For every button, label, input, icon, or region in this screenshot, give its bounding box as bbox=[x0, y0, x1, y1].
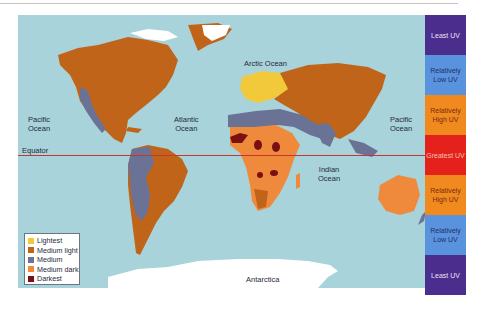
uv-segment-high-south: Relatively High UV bbox=[425, 175, 466, 215]
uv-segment-label: Relatively High UV bbox=[425, 186, 466, 204]
antarctica-label: Antarctica bbox=[246, 275, 279, 284]
uv-segment-greatest: Greatest UV bbox=[425, 135, 466, 175]
africa-darkest-east bbox=[272, 142, 280, 152]
caribbean-islands bbox=[126, 127, 142, 133]
legend-item-lightest: Lightest bbox=[28, 236, 76, 246]
legend-label: Medium bbox=[37, 255, 63, 264]
africa-darkest-south bbox=[270, 170, 278, 176]
legend-label: Medium light bbox=[37, 246, 78, 255]
indian-ocean-label: Indian Ocean bbox=[318, 165, 340, 183]
north-america-region bbox=[58, 37, 178, 143]
uv-segment-label: Relatively Low UV bbox=[425, 226, 466, 244]
equator-label: Equator bbox=[22, 146, 48, 155]
uv-segment-least-top: Least UV bbox=[425, 15, 466, 55]
legend-label: Medium dark bbox=[37, 265, 79, 274]
arctic-ocean-label: Arctic Ocean bbox=[244, 59, 287, 68]
uv-segment-high-north: Relatively High UV bbox=[425, 95, 466, 135]
equator-line bbox=[18, 155, 425, 156]
skin-color-legend: Lightest Medium light Medium Medium dark… bbox=[24, 233, 80, 285]
legend-swatch bbox=[28, 266, 34, 272]
pacific-ocean-east-label: Pacific Ocean bbox=[390, 115, 412, 133]
uv-segment-least-bottom: Least UV bbox=[425, 255, 466, 295]
antarctica-region bbox=[108, 259, 338, 288]
africa-darkest-central bbox=[254, 140, 262, 150]
uv-segment-label: Relatively Low UV bbox=[425, 66, 466, 84]
legend-label: Lightest bbox=[37, 236, 62, 245]
uv-segment-label: Least UV bbox=[431, 31, 460, 40]
uv-segment-label: Least UV bbox=[431, 271, 460, 280]
uv-segment-label: Greatest UV bbox=[426, 151, 465, 160]
new-zealand bbox=[418, 211, 425, 225]
legend-item-darkest: Darkest bbox=[28, 274, 76, 284]
legend-item-medium: Medium bbox=[28, 255, 76, 265]
top-rule bbox=[0, 3, 458, 4]
legend-item-medium-dark: Medium dark bbox=[28, 265, 76, 275]
legend-label: Darkest bbox=[37, 274, 62, 283]
uv-segment-low-south: Relatively Low UV bbox=[425, 215, 466, 255]
uv-scale-band: Least UV Relatively Low UV Relatively Hi… bbox=[425, 15, 466, 295]
uv-segment-low-north: Relatively Low UV bbox=[425, 55, 466, 95]
madagascar bbox=[296, 173, 300, 189]
australia-region bbox=[378, 175, 420, 215]
pacific-ocean-west-label: Pacific Ocean bbox=[28, 115, 50, 133]
africa-darkest-south-west bbox=[257, 172, 263, 178]
world-skin-color-map: Equator Pacific Ocean Atlantic Ocean Arc… bbox=[18, 15, 425, 288]
legend-swatch bbox=[28, 276, 34, 282]
legend-swatch bbox=[28, 257, 34, 263]
atlantic-ocean-label: Atlantic Ocean bbox=[174, 115, 199, 133]
uv-segment-label: Relatively High UV bbox=[425, 106, 466, 124]
legend-swatch bbox=[28, 238, 34, 244]
legend-swatch bbox=[28, 247, 34, 253]
legend-item-medium-light: Medium light bbox=[28, 246, 76, 256]
